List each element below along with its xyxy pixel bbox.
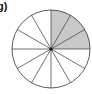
center-dot <box>49 47 52 50</box>
fraction-circle <box>0 0 92 94</box>
